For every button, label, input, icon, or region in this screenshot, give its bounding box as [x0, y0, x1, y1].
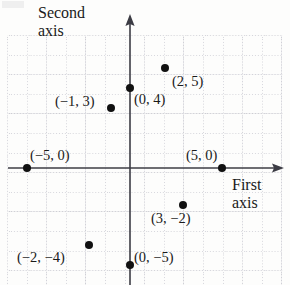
axes-group: [0, 0, 290, 285]
data-point-label: (−1, 3): [55, 94, 95, 109]
data-point-label: (−5, 0): [30, 148, 70, 163]
data-point-label: (3, −2): [151, 211, 191, 226]
data-point: [23, 164, 31, 172]
data-point: [85, 241, 93, 249]
first-axis-label-line2: axis: [232, 194, 261, 212]
data-point-label: (2, 5): [172, 74, 203, 89]
data-point-label: (5, 0): [186, 148, 217, 163]
data-point-label: (−2, −4): [17, 250, 65, 265]
first-axis-label-line1: First: [232, 176, 261, 194]
coordinate-plane-figure: Second axis First axis (2, 5)(0, 4)(−1, …: [0, 0, 290, 285]
data-point: [161, 64, 169, 72]
data-point-label: (0, −5): [134, 250, 174, 265]
data-point: [126, 261, 134, 269]
second-axis-label-line1: Second: [38, 4, 85, 22]
data-point: [179, 201, 187, 209]
data-point: [218, 164, 226, 172]
second-axis-label-line2: axis: [38, 22, 85, 40]
second-axis-label: Second axis: [38, 4, 85, 40]
data-point-label: (0, 4): [134, 92, 165, 107]
first-axis-label: First axis: [232, 176, 261, 212]
data-point: [126, 84, 134, 92]
data-point: [107, 104, 115, 112]
